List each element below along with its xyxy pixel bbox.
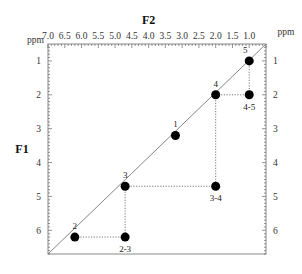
diagonal-peak — [171, 131, 180, 140]
x-tick-label: 3.0 — [176, 31, 188, 41]
y-tick-label-right: 3 — [273, 124, 278, 134]
x-tick-label: 4.5 — [126, 31, 138, 41]
diagonal-peak — [121, 182, 130, 191]
y-tick-label-right: 6 — [273, 226, 278, 236]
x-tick-label: 5.5 — [92, 31, 104, 41]
diagonal-peak — [211, 90, 220, 99]
cross-peak — [211, 182, 220, 191]
y-tick-label-left: 5 — [36, 192, 41, 202]
x-unit-label-left: ppm — [27, 35, 45, 45]
cross-peak — [245, 90, 254, 99]
y-axis-title: F1 — [15, 142, 28, 156]
cosy-diagram: 7.06.56.05.55.04.54.03.53.02.52.01.51.0p… — [0, 0, 302, 274]
x-tick-label: 3.5 — [159, 31, 171, 41]
x-tick-label: 2.5 — [193, 31, 205, 41]
cross-peak — [121, 233, 130, 242]
diagonal-peak-label: 1 — [173, 119, 178, 129]
x-tick-label: 4.0 — [143, 31, 155, 41]
diagonal-peak — [70, 233, 79, 242]
x-tick-label: 1.5 — [227, 31, 239, 41]
x-axis-title: F2 — [142, 13, 155, 27]
diagonal-peak — [245, 56, 254, 65]
cross-peak-label: 3-4 — [210, 193, 222, 203]
y-tick-label-left: 3 — [36, 124, 41, 134]
y-tick-label-left: 6 — [36, 226, 41, 236]
x-tick-label: 1.0 — [243, 31, 255, 41]
diagonal-peak-label: 5 — [243, 45, 248, 55]
y-tick-label-left: 4 — [36, 158, 41, 168]
cross-peak-label: 4-5 — [243, 102, 255, 112]
y-tick-label-right: 1 — [273, 56, 278, 66]
cross-peak-label: 2-3 — [119, 244, 131, 254]
x-unit-label-right: ppm — [278, 27, 296, 37]
y-tick-label-left: 2 — [36, 90, 41, 100]
diagonal-peak-label: 3 — [123, 170, 128, 180]
y-tick-label-right: 4 — [273, 158, 278, 168]
x-tick-label: 5.0 — [109, 31, 121, 41]
diagonal-peak-label: 2 — [73, 221, 78, 231]
x-tick-label: 2.0 — [210, 31, 222, 41]
y-tick-label-right: 2 — [273, 90, 278, 100]
y-tick-label-right: 5 — [273, 192, 278, 202]
x-tick-label: 6.5 — [59, 31, 71, 41]
diagonal-peak-label: 4 — [213, 79, 218, 89]
x-tick-label: 6.0 — [76, 31, 88, 41]
diagonal-line — [48, 44, 266, 254]
y-tick-label-left: 1 — [36, 56, 41, 66]
